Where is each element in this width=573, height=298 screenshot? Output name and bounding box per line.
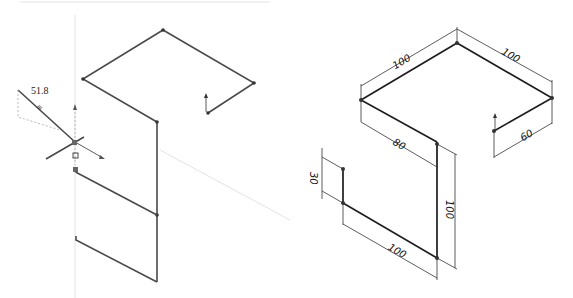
dim-vertical-large[interactable]: 100 [444,200,455,219]
cad-canvas: 51.8 ≡ [0,0,573,298]
dim-top-left[interactable]: 100 [391,52,413,71]
axis-guide [160,150,290,220]
live-dimension-value: 51.8 [31,85,49,96]
origin-arrow-icon [204,93,208,112]
origin-arrow-icon [493,113,497,130]
dim-vertical-small[interactable]: 30 [308,172,319,185]
dim-right-short[interactable]: 60 [518,127,535,143]
dim-middle[interactable]: 80 [391,136,408,152]
right-sketch[interactable] [341,41,554,260]
dim-bottom[interactable]: 100 [386,241,408,260]
left-sketch[interactable] [76,28,256,282]
cursor-glyph: ≡ [34,101,46,113]
dim-top-right[interactable]: 100 [500,46,522,65]
